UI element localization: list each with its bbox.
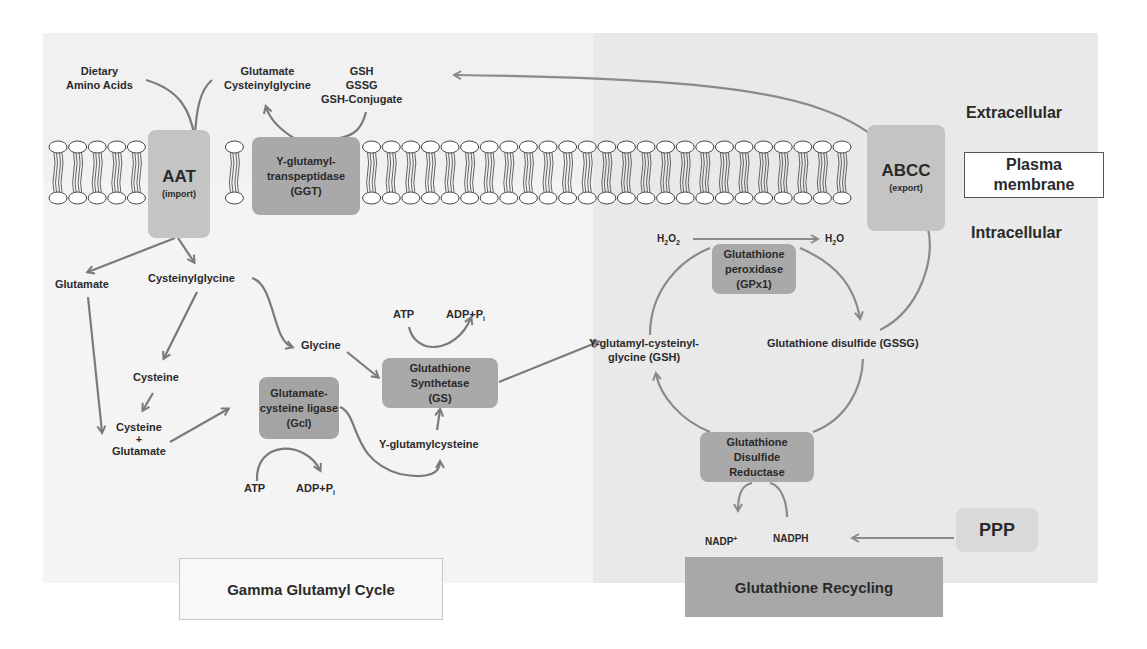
cysglu-line1: Cysteine [112, 421, 166, 433]
atp-gs: ATP [393, 307, 414, 321]
gr-line2: Disulfide [734, 450, 780, 465]
adp-gcl-sub: i [333, 489, 335, 496]
gcl-enzyme[interactable]: Glutamate- cysteine ligase (Gcl) [259, 377, 339, 439]
abcc-transporter[interactable]: ABCC (export) [867, 125, 945, 231]
gcl-line3: (Gcl) [286, 416, 311, 431]
extracellular-label: Extracellular [966, 104, 1062, 122]
gcl-line2: cysteine ligase [260, 401, 338, 416]
nadp: NADP+ [705, 532, 737, 549]
intracellular-label: Intracellular [971, 224, 1062, 242]
arrow-aat-to-glutamate [88, 238, 175, 272]
plasma-membrane-line2: membrane [994, 175, 1075, 195]
arrow-ggt-to-glucysgly [266, 107, 297, 140]
ppp-box[interactable]: PPP [956, 508, 1038, 552]
arrow-cysgly-to-cysteine [164, 292, 197, 358]
dietary-line2: Amino Acids [66, 78, 133, 92]
phospholipid [363, 141, 381, 204]
gamma-glutamylcysteine: Y-glutamylcysteine [379, 437, 479, 451]
phospholipid [715, 141, 733, 204]
phospholipid [127, 141, 145, 204]
ggt-line3: (GGT) [290, 184, 321, 199]
gs-line1: Glutathione [409, 361, 470, 376]
gsh-species-out: GSH GSSG GSH-Conjugate [321, 64, 402, 106]
out-cysteinylglycine: Cysteinylglycine [224, 78, 311, 92]
phospholipid [108, 141, 126, 204]
phospholipid [69, 141, 87, 204]
arrow-gr-to-nadp [738, 483, 752, 510]
adp-gcl-text: ADP+P [296, 482, 333, 494]
arrow-gsh-to-ggt [340, 112, 366, 138]
phospholipid [657, 141, 675, 204]
gs-line2: Synthetase [411, 376, 470, 391]
plasma-membrane-label: Plasma membrane [964, 152, 1104, 198]
ggt-line2: transpeptidase [267, 169, 345, 184]
phospholipid [578, 141, 596, 204]
gs-enzyme[interactable]: Glutathione Synthetase (GS) [382, 358, 498, 408]
arrow-gpx-to-gssg [800, 248, 860, 318]
gpx-line3: (GPx1) [736, 277, 771, 292]
phospholipid [617, 141, 635, 204]
adp-gs: ADP+Pi [446, 307, 485, 326]
cysglu-line3: Glutamate [112, 445, 166, 457]
recycling-title: Glutathione Recycling [735, 579, 893, 596]
phospholipid [88, 141, 106, 204]
arrow-abcc-to-gsh-out [455, 75, 878, 140]
ggt-line1: Y-glutamyl- [276, 154, 335, 169]
out-gssg: GSSG [321, 78, 402, 92]
phospholipid [519, 141, 537, 204]
gs-line3: (GS) [428, 391, 451, 406]
cysteinylglycine: Cysteinylglycine [148, 271, 235, 285]
arrow-cysglu-to-gcl [170, 409, 228, 442]
arrow-aat-to-cysgly [178, 238, 194, 262]
arrow-gs-to-gsh [499, 342, 598, 382]
arrow-ggc-to-gs [437, 410, 440, 430]
recycling-legend: Glutathione Recycling [685, 557, 943, 617]
h2o2: H2O2 [657, 232, 680, 250]
glutamate: Glutamate [55, 277, 109, 291]
adp-gs-sub: i [483, 315, 485, 322]
glycine: Glycine [301, 338, 341, 352]
phospholipid [382, 141, 400, 204]
phospholipid [461, 141, 479, 204]
arrow-glutamate-to-cysglu [88, 297, 102, 432]
phospholipid [774, 141, 792, 204]
ggt-enzyme[interactable]: Y-glutamyl- transpeptidase (GGT) [252, 137, 360, 215]
out-glutamate: Glutamate [224, 64, 311, 78]
arrow-abcc-gssg [880, 228, 930, 330]
gpx-line1: Glutathione [723, 247, 784, 262]
phospholipid [676, 141, 694, 204]
phospholipid [49, 141, 67, 204]
gr-enzyme[interactable]: Glutathione Disulfide Reductase [700, 432, 814, 482]
phospholipid [480, 141, 498, 204]
phospholipid [735, 141, 753, 204]
cysteine-plus-glutamate: Cysteine + Glutamate [112, 421, 166, 457]
phospholipid [813, 141, 831, 204]
plasma-membrane-line1: Plasma [1006, 155, 1062, 175]
arrow-gcl-atp [257, 449, 320, 481]
arrow-cysgly-to-glycine [252, 278, 292, 347]
phospholipid [539, 141, 557, 204]
h2o2-sub2: 2 [676, 239, 680, 246]
aat-transporter[interactable]: AAT (import) [148, 130, 210, 238]
gcl-line1: Glutamate- [270, 386, 327, 401]
h2o: H2O [825, 232, 844, 250]
nadp-text: NADP [705, 536, 733, 547]
dietary-line1: Dietary [66, 64, 133, 78]
arrow-gssg-to-gr [813, 359, 863, 432]
cysglu-plus: + [112, 433, 166, 445]
h2o-o: O [836, 233, 844, 244]
out-gsh-conjugate: GSH-Conjugate [321, 92, 402, 106]
out-gsh: GSH [321, 64, 402, 78]
arrow-nadph-to-gr [770, 483, 787, 517]
gpx-enzyme[interactable]: Glutathione peroxidase (GPx1) [712, 244, 796, 294]
arrow-gr-to-gsh [656, 374, 710, 432]
nadph: NADPH [773, 532, 809, 546]
gsh-line1: Y-glutamyl-cysteinyl- [589, 336, 699, 350]
gsh-line2: glycine (GSH) [589, 350, 699, 364]
phospholipid [441, 141, 459, 204]
arrow-gsh-to-gpx [650, 248, 710, 335]
phospholipid [402, 141, 420, 204]
phospholipid [833, 141, 851, 204]
gamma-cycle-title: Gamma Glutamyl Cycle [227, 581, 395, 598]
gpx-line2: peroxidase [725, 262, 783, 277]
